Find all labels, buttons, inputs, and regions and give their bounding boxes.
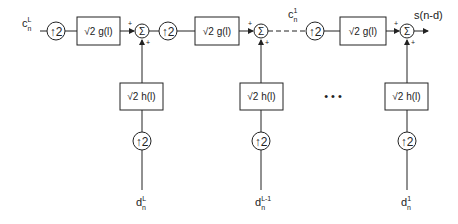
synthesis-filter-bank-diagram: ↑2 √2 g(l) Σ + + √2 h(l) ↑2 ↑2 √2 g(l) Σ…: [0, 0, 458, 224]
input-c-L-label: cLn: [22, 16, 32, 32]
output-label: s(n-d): [414, 9, 443, 21]
input-c-1-label: c1n: [288, 7, 298, 23]
plus-sign: +: [265, 39, 269, 46]
ellipsis: • • •: [324, 90, 342, 102]
h-filter-label: √2 h(l): [127, 91, 155, 102]
plus-sign: +: [411, 39, 415, 46]
h-filter-label: √2 h(l): [247, 91, 275, 102]
g-filter-label: √2 g(l): [84, 26, 112, 37]
stage-L: ↑2 √2 g(l) Σ + + √2 h(l) ↑2: [40, 17, 163, 190]
g-filter-label: √2 g(l): [349, 26, 377, 37]
sum-symbol: Σ: [139, 26, 145, 37]
upsample-by-2-label: ↑2: [255, 135, 268, 149]
plus-sign: +: [128, 20, 132, 27]
plus-sign: +: [248, 20, 252, 27]
plus-sign: +: [394, 20, 398, 27]
input-d-L-label: dLn: [136, 195, 146, 211]
upsample-by-2-label: ↑2: [50, 25, 63, 39]
upsample-by-2-label: ↑2: [401, 135, 414, 149]
upsample-by-2-label: ↑2: [309, 25, 322, 39]
stage-L-1: ↑2 √2 g(l) Σ + + √2 h(l) ↑2: [159, 17, 306, 190]
stage-1: ↑2 √2 g(l) Σ + + √2 h(l) ↑2: [306, 17, 428, 190]
input-d-L-1-label: dL-1n: [255, 195, 271, 211]
g-filter-label: √2 g(l): [203, 26, 231, 37]
upsample-by-2-label: ↑2: [136, 135, 149, 149]
h-filter-label: √2 h(l): [392, 91, 420, 102]
sum-symbol: Σ: [258, 26, 264, 37]
input-d-1-label: d1n: [401, 195, 411, 211]
upsample-by-2-label: ↑2: [162, 25, 175, 39]
plus-sign: +: [146, 39, 150, 46]
sum-symbol: Σ: [404, 26, 410, 37]
